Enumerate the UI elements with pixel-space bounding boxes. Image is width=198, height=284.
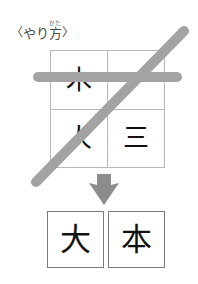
grid-cell-r2c1[interactable]: 人: [51, 109, 108, 168]
grid-char-r1c2: 一: [123, 67, 149, 93]
grid-cell-r2c2[interactable]: 三: [108, 109, 165, 168]
heading-open-bracket: 〈: [11, 27, 23, 39]
grid-char-r2c2: 三: [123, 125, 149, 151]
worksheet-canvas: 〈 やり かた 方 〉 木 一 人 三: [0, 0, 198, 284]
result-char-1: 大: [60, 224, 91, 255]
howto-heading: 〈 やり かた 方 〉: [11, 21, 74, 40]
grid-row: 木 一: [51, 51, 165, 110]
heading-close-bracket: 〉: [62, 27, 74, 39]
heading-ruby-group: かた 方: [49, 21, 62, 40]
grid-char-r1c1: 木: [66, 67, 92, 93]
grid-row: 人 三: [51, 109, 165, 168]
grid-cell-r1c2[interactable]: 一: [108, 51, 165, 110]
grid-char-r2c1: 人: [66, 125, 92, 151]
result-box-1[interactable]: 大: [47, 211, 104, 268]
result-char-2: 本: [121, 224, 152, 255]
result-boxes: 大 本: [47, 211, 165, 268]
source-character-grid: 木 一 人 三: [50, 50, 165, 168]
kanji-hou: 方: [49, 27, 62, 40]
heading-text: やり: [23, 27, 49, 40]
result-box-2[interactable]: 本: [108, 211, 165, 268]
grid-cell-r1c1[interactable]: 木: [51, 51, 108, 110]
down-arrow-icon: [86, 172, 122, 208]
